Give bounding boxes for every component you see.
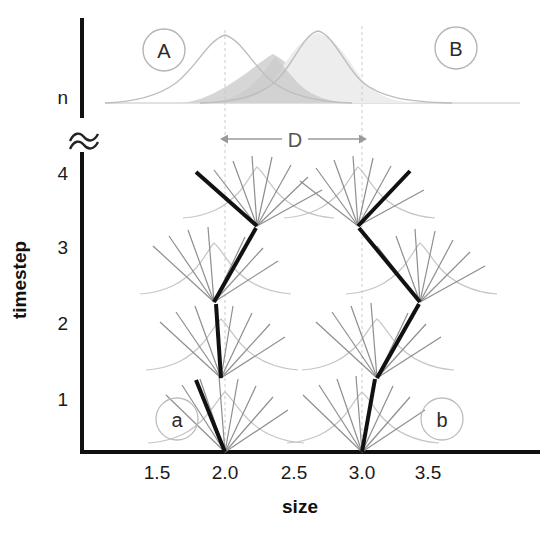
y-tick-4: 4	[57, 163, 68, 184]
fan-a-step0-rays	[166, 376, 288, 452]
fan-a-step3-rays	[214, 156, 322, 226]
fan-a-step2-rays	[153, 227, 278, 302]
x-tick-2-5: 2.5	[281, 462, 307, 483]
fan-b-step1-bell	[302, 319, 454, 370]
fan-a-step3-bell	[183, 167, 334, 218]
y-tick-labels: n 4 3 2 1	[57, 87, 68, 410]
fan-b-step3-bell	[284, 167, 435, 218]
distribution-label-a: A	[143, 29, 185, 71]
fan-b-step0	[287, 376, 439, 452]
distribution-label-b: B	[435, 27, 477, 69]
fan-b-step0-bold	[362, 379, 375, 452]
figure-canvas: A B D	[0, 0, 550, 533]
x-tick-3-0: 3.0	[349, 462, 375, 483]
fan-a-step1	[146, 304, 298, 378]
label-a-small-text: a	[171, 409, 183, 431]
fan-b-step1-rays	[316, 303, 441, 378]
fan-b-step1	[302, 303, 454, 378]
x-tick-1-5: 1.5	[144, 462, 170, 483]
fan-a-step1-bell	[146, 319, 298, 370]
fan-a-step2-bold	[214, 228, 256, 302]
y-tick-1: 1	[57, 389, 68, 410]
distribution-panel: A B	[105, 27, 520, 103]
fan-b-step2-bell	[346, 243, 497, 294]
x-axis-title: size	[282, 496, 318, 517]
x-tick-2-0: 2.0	[212, 462, 238, 483]
fan-b-step2-rays	[377, 229, 485, 302]
fan-a-step1-rays	[160, 306, 285, 378]
fan-b-step2-bold	[359, 228, 420, 302]
y-tick-2: 2	[57, 313, 68, 334]
axis-break-icon	[70, 134, 98, 149]
x-tick-labels: 1.5 2.0 2.5 3.0 3.5	[144, 462, 441, 483]
d-label-text: D	[288, 129, 302, 151]
label-a-text: A	[157, 40, 171, 62]
label-b-small-text: b	[436, 409, 447, 431]
y-axis-title: timestep	[9, 241, 30, 319]
axis-break-wave-bottom	[70, 142, 98, 149]
figure-root: A B D	[0, 0, 550, 533]
fan-a-step3	[183, 156, 334, 226]
trajectory-label-b: b	[421, 398, 463, 440]
fan-b-step2	[346, 228, 497, 302]
fan-b-step3	[284, 156, 435, 226]
x-tick-3-5: 3.5	[415, 462, 441, 483]
fan-a-step2	[140, 227, 291, 302]
label-b-text: B	[449, 38, 462, 60]
fan-b-step1-bold	[377, 304, 419, 378]
y-tick-n: n	[57, 87, 68, 108]
y-tick-3: 3	[57, 237, 68, 258]
separation-measure: D	[228, 129, 359, 151]
fan-a-step2-bell	[140, 243, 291, 294]
axis-break-wave-top	[70, 134, 98, 141]
